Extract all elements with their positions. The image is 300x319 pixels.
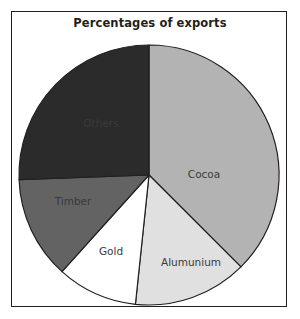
pie-slice-label-gold: Gold bbox=[99, 245, 123, 257]
pie-slice-label-cocoa: Cocoa bbox=[188, 168, 220, 180]
pie-slices-group bbox=[19, 45, 279, 305]
pie-slice-label-others: Others bbox=[83, 117, 118, 129]
pie-slice-label-timber: Timber bbox=[54, 195, 92, 207]
chart-figure: Percentages of exports CocoaAlumuniumGol… bbox=[0, 0, 300, 319]
pie-slice-label-alumunium: Alumunium bbox=[161, 256, 221, 268]
pie-chart: CocoaAlumuniumGoldTimberOthers bbox=[11, 11, 287, 307]
pie-slice-others[interactable] bbox=[19, 45, 149, 180]
